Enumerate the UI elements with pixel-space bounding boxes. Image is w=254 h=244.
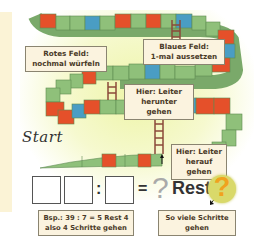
equals-sign: = bbox=[138, 180, 147, 198]
example-line-1: Bsp.: 39 : 7 = 5 Rest 4 bbox=[42, 213, 130, 223]
example-line-2: also 4 Schritte gehen bbox=[42, 223, 130, 233]
remainder-circle: ? bbox=[208, 175, 236, 203]
rest-label: Rest bbox=[172, 178, 211, 199]
label-text: nochmal würfeln bbox=[29, 59, 103, 69]
label-red-field: Rotes Feld: nochmal würfeln bbox=[25, 46, 107, 72]
division-colon: : bbox=[96, 180, 101, 198]
start-label: Start bbox=[22, 128, 63, 146]
label-title: Rotes Feld: bbox=[29, 49, 103, 59]
label-text: 1-mal aussetzen bbox=[147, 52, 221, 62]
label-example: Bsp.: 39 : 7 = 5 Rest 4 also 4 Schritte … bbox=[38, 210, 134, 236]
label-title: Hier: Leiter bbox=[175, 147, 223, 157]
quotient-placeholder: ? bbox=[152, 171, 169, 205]
divisor-box[interactable] bbox=[105, 176, 134, 204]
label-ladder-down: Hier: Leiter herunter gehen bbox=[124, 84, 194, 120]
snake-game-board bbox=[0, 0, 254, 244]
dividend-tens-box[interactable] bbox=[32, 176, 61, 204]
remainder-question-icon: ? bbox=[208, 172, 236, 203]
label-text: herunter gehen bbox=[128, 97, 190, 117]
steps-line-1: So viele Schritte bbox=[162, 213, 232, 223]
label-title: Blaues Feld: bbox=[147, 42, 221, 52]
label-steps: So viele Schritte gehen bbox=[158, 210, 236, 236]
label-blue-field: Blaues Feld: 1-mal aussetzen bbox=[143, 39, 225, 65]
steps-line-2: gehen bbox=[162, 223, 232, 233]
dividend-ones-box[interactable] bbox=[64, 176, 93, 204]
label-title: Hier: Leiter bbox=[128, 87, 190, 97]
